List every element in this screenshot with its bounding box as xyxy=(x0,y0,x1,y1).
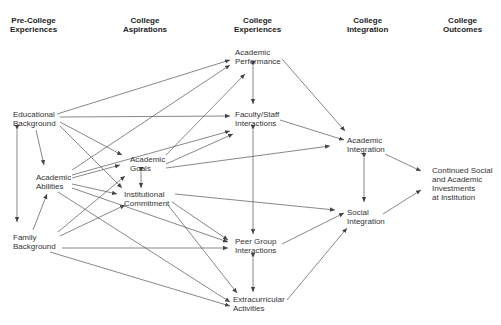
header-college-integration: College Integration xyxy=(347,16,388,34)
node-academic-goals: Academic Goals xyxy=(130,155,165,173)
header-college-outcomes: College Outcomes xyxy=(443,16,482,34)
header-pre-college-experiences: Pre-College Experiences xyxy=(10,16,57,34)
node-academic-performance: Academic Performance xyxy=(235,48,281,66)
node-peer-group-interactions: Peer Group Interactions xyxy=(235,237,276,255)
node-educational-background: Educational Background xyxy=(13,110,56,128)
node-social-integration: Social Integration xyxy=(347,208,385,226)
node-faculty-staff-interactions: Faculty/Staff Interactions xyxy=(235,110,279,128)
header-college-aspirations: College Aspirations xyxy=(123,16,167,34)
node-institutional-commitment: Institutional Commitment xyxy=(124,190,169,208)
node-continued-investments: Continued Social and Academic Investment… xyxy=(432,166,492,202)
node-academic-abilities: Academic Abilities xyxy=(36,173,71,191)
node-family-background: Family Background xyxy=(13,233,56,251)
node-academic-integration: Academic Integration xyxy=(347,136,385,154)
header-college-experiences: College Experiences xyxy=(234,16,281,34)
node-extracurricular-activities: Extracurricular Activities xyxy=(233,295,285,313)
